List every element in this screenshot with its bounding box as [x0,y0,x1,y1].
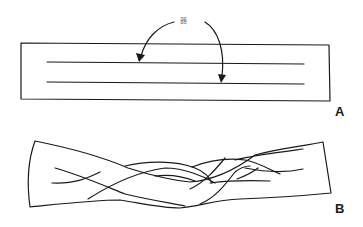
arrowhead-icon [136,53,145,62]
arrow-to-top-line [141,22,174,56]
strip-outline [21,43,330,101]
panel-b [28,141,331,208]
panel-label-b: B [335,201,344,216]
arrowhead-icon [218,74,226,83]
panel-a [21,22,330,101]
panel-label-a: A [335,104,344,119]
callout-label: 器 [180,15,187,25]
arrow-to-bottom-line [205,22,223,76]
diagram-canvas [0,0,363,227]
incision-line-bottom [47,82,304,84]
incision-line-top [47,62,304,64]
